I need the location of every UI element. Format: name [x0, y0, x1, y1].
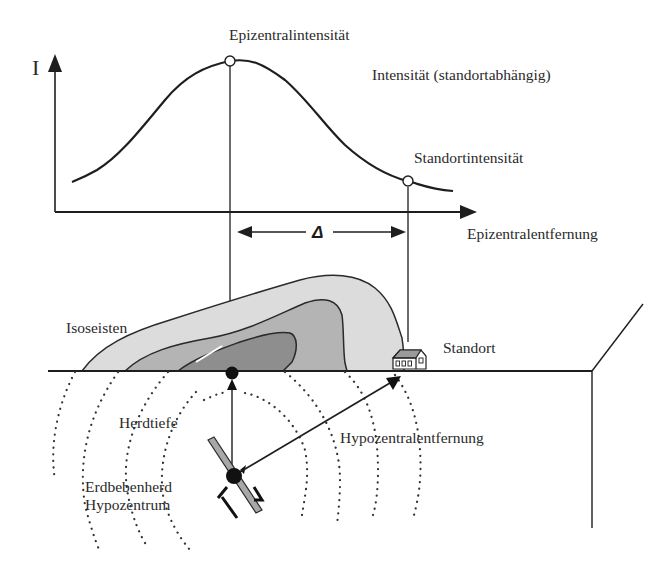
peak-label: Epizentralintensität	[229, 26, 350, 43]
epicentral-distance-dimension: Δ	[237, 223, 406, 242]
hypocentral-distance-label: Hypozentralentfernung	[340, 429, 484, 446]
cross-section: Isoseisten Herdtiefe	[48, 275, 643, 552]
peak-intensity-marker	[225, 56, 235, 66]
isoseismal-label: Isoseisten	[66, 319, 127, 336]
earthquake-diagram: I Epizentralentfernung Intensität (stand…	[0, 0, 671, 562]
hypocentral-distance-line	[240, 380, 395, 472]
x-axis-arrow-icon	[460, 205, 477, 219]
site-intensity-marker	[403, 176, 413, 186]
curve-label: Intensität (standortabhängig)	[372, 66, 551, 84]
site-intensity-label: Standortintensität	[414, 149, 524, 166]
hypocenter-marker	[226, 468, 242, 484]
arrow-left-icon	[237, 226, 252, 238]
hypocentral-arrow-icon	[386, 376, 401, 390]
fault-motion-up-icon	[218, 487, 237, 518]
diagram-canvas: I Epizentralentfernung Intensität (stand…	[0, 0, 671, 562]
focus-label-line1: Erdbebenherd	[85, 478, 172, 495]
seismic-wavefronts	[53, 372, 420, 552]
x-axis-label: Epizentralentfernung	[467, 225, 598, 242]
delta-symbol: Δ	[311, 223, 323, 242]
house-icon	[393, 350, 426, 369]
site-label: Standort	[443, 339, 496, 356]
focal-depth-label: Herdtiefe	[119, 414, 178, 431]
depth-arrow-icon	[227, 379, 237, 390]
arrow-right-icon	[391, 226, 406, 238]
epicenter-marker	[226, 367, 239, 380]
block-edge-diagonal	[592, 304, 643, 371]
isoseismal-zones	[82, 275, 404, 371]
fault-motion-down-icon	[254, 487, 262, 500]
y-axis-arrow-icon	[48, 54, 62, 72]
y-axis-label: I	[32, 55, 39, 80]
focus-label-line2: Hypozentrum	[85, 496, 170, 513]
